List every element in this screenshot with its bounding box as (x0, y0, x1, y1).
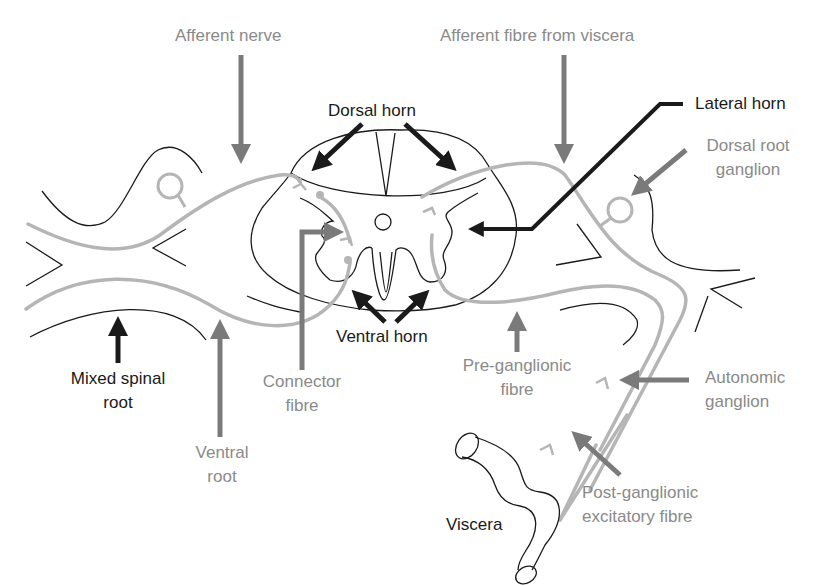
label-ventral-root: Ventral root (182, 441, 262, 489)
label-viscera: Viscera (446, 513, 502, 537)
label-lateral-horn: Lateral horn (695, 92, 786, 116)
label-mixed-spinal-root-line1: Mixed spinal (58, 367, 178, 391)
label-dorsal-horn: Dorsal horn (328, 99, 416, 123)
label-connector-fibre-line1: Connector (252, 370, 352, 394)
label-pre-ganglionic-line2: fibre (452, 378, 582, 402)
label-pre-ganglionic-fibre: Pre-ganglionic fibre (452, 354, 582, 402)
label-dorsal-root-ganglion-line2: ganglion (698, 158, 798, 182)
ventral-horn-arrow-right (396, 296, 423, 322)
label-mixed-spinal-root: Mixed spinal root (58, 367, 178, 415)
label-afferent-nerve: Afferent nerve (175, 24, 281, 48)
label-connector-fibre-line2: fibre (252, 394, 352, 418)
spinal-cord-outline (251, 130, 516, 311)
label-autonomic-ganglion-line2: ganglion (705, 390, 785, 414)
label-ventral-root-line1: Ventral (182, 441, 262, 465)
label-afferent-fibre-viscera: Afferent fibre from viscera (440, 24, 634, 48)
dorsal-horn-arrow-left (318, 124, 362, 165)
diagram-drawing (0, 0, 825, 586)
ganglion-cells (158, 174, 632, 264)
label-mixed-spinal-root-line2: root (58, 391, 178, 415)
label-post-ganglionic-line2: excitatory fibre (582, 505, 698, 529)
spinal-cord-reflex-diagram: Afferent nerve Afferent fibre from visce… (0, 0, 825, 586)
label-dorsal-root-ganglion: Dorsal root ganglion (698, 134, 798, 182)
right-nerve-outline (556, 175, 755, 345)
label-ventral-root-line2: root (182, 465, 262, 489)
label-post-ganglionic-line1: Post-ganglionic (582, 481, 698, 505)
label-ventral-horn: Ventral horn (336, 325, 428, 349)
label-connector-fibre: Connector fibre (252, 370, 352, 418)
label-pre-ganglionic-line1: Pre-ganglionic (452, 354, 582, 378)
label-autonomic-ganglion: Autonomic ganglion (705, 366, 785, 414)
label-autonomic-ganglion-line1: Autonomic (705, 366, 785, 390)
label-post-ganglionic-fibre: Post-ganglionic excitatory fibre (582, 481, 698, 529)
dorsal-root-ganglion-arrow (638, 150, 686, 190)
label-dorsal-root-ganglion-line1: Dorsal root (698, 134, 798, 158)
viscera-tube (451, 429, 560, 586)
